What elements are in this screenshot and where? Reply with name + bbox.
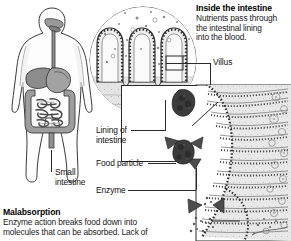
food-particle-leader-line bbox=[148, 163, 176, 164]
small-intestine-leader-line bbox=[51, 150, 52, 172]
label-lining-line2: intestine bbox=[96, 136, 127, 146]
body-anatomy-illustration bbox=[6, 6, 98, 184]
label-small-intestine-line2: intestine bbox=[55, 178, 85, 188]
villus-leader-line bbox=[166, 63, 210, 64]
enzyme-leader-line bbox=[128, 190, 196, 191]
inside-intestine-text-block: Inside the intestine Nutrients pass thro… bbox=[196, 3, 289, 43]
label-enzyme-text: Enzyme bbox=[96, 185, 126, 195]
malabsorption-line-2: molecules that can be absorbed. Lack of bbox=[3, 228, 189, 238]
malabsorption-paragraph: Enzyme action breaks food down into mole… bbox=[3, 218, 189, 237]
label-villus: Villus bbox=[213, 58, 232, 68]
label-enzyme: Enzyme bbox=[96, 186, 126, 196]
label-small-intestine: Small intestine bbox=[55, 168, 85, 188]
malabsorption-text-block: Malabsorption Enzyme action breaks food … bbox=[3, 207, 189, 237]
label-food-particle: Food particle bbox=[96, 159, 143, 169]
food-particle-with-enzymes bbox=[163, 133, 207, 173]
label-lining-of-intestine: Lining of intestine bbox=[96, 126, 127, 146]
label-food-particle-text: Food particle bbox=[96, 158, 143, 168]
free-enzyme-triangles bbox=[188, 198, 224, 213]
villus-leader-drop bbox=[210, 63, 211, 85]
free-enzymes-and-molecules bbox=[186, 193, 242, 239]
enzyme-leader-drop bbox=[196, 168, 197, 190]
label-villus-text: Villus bbox=[213, 57, 232, 67]
inside-intestine-paragraph: Nutrients pass through the intestinal li… bbox=[196, 14, 289, 43]
heading-malabsorption: Malabsorption bbox=[3, 207, 189, 217]
lining-leader-line bbox=[131, 130, 166, 131]
heading-inside-intestine: Inside the intestine bbox=[196, 3, 289, 13]
medical-illustration-figure: Small intestine bbox=[0, 0, 291, 241]
inset-to-detail-connector bbox=[165, 108, 166, 126]
food-particle-pointer bbox=[192, 100, 222, 128]
inside-intestine-line-3: into the blood. bbox=[196, 33, 289, 43]
